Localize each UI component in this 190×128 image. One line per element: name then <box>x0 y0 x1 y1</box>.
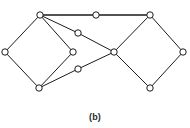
top-right-vertex <box>147 12 153 18</box>
top-left-vertex <box>37 12 43 18</box>
edge-topleft-left <box>7 17 38 50</box>
edge-topright-center <box>116 17 148 50</box>
lower-middle-vertex <box>75 66 81 72</box>
upper-middle-vertex <box>75 30 81 36</box>
edge-layer <box>7 15 181 87</box>
edge-left-bottomleft <box>7 54 37 86</box>
edge-bottomleft-lowermiddle <box>41 70 75 87</box>
left-diamond-right-vertex <box>70 49 76 55</box>
edge-lowermiddle-center <box>80 53 111 68</box>
edge-center-bottomright <box>116 54 148 86</box>
left-vertex <box>2 49 8 55</box>
figure-caption: (b) <box>0 112 190 122</box>
bottom-right-vertex <box>147 85 153 91</box>
graph-diagram <box>0 0 190 128</box>
figure-container: (b) <box>0 0 190 128</box>
edge-farright-topright <box>152 17 182 50</box>
center-vertex <box>111 49 117 55</box>
top-middle-vertex <box>93 12 99 18</box>
far-right-vertex <box>180 49 186 55</box>
edge-bottomleft-diamondright <box>41 54 71 86</box>
edge-uppermiddle-center <box>80 34 111 51</box>
edge-diamondright-topleft <box>42 17 72 50</box>
edge-topleft-uppermiddle <box>42 16 75 32</box>
bottom-left-vertex <box>36 85 42 91</box>
edge-bottomright-farright <box>152 54 181 86</box>
